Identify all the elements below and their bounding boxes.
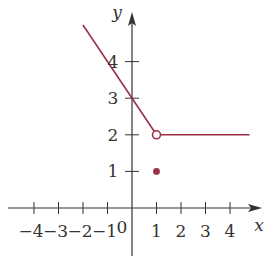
filled-point-marker: [153, 168, 160, 175]
origin-label: 0: [117, 217, 128, 237]
y-axis-label: y: [111, 2, 122, 22]
y-tick-label: 2: [108, 125, 119, 145]
x-tick-label: 2: [176, 221, 187, 241]
point-markers: [153, 131, 161, 175]
x-tick-label: −4: [18, 221, 43, 241]
y-tick-label: 3: [108, 88, 119, 108]
x-tick-label: 4: [225, 221, 236, 241]
x-axis-label: x: [254, 215, 264, 235]
function-segment: [83, 25, 157, 135]
x-tick-label: −2: [67, 221, 92, 241]
y-tick-label: 1: [108, 161, 119, 181]
tick-labels: −4−3−2−1123412340xy: [18, 2, 264, 241]
x-tick-label: −3: [43, 221, 68, 241]
y-tick-label: 4: [108, 52, 119, 72]
x-tick-label: 1: [151, 221, 162, 241]
x-tick-label: −1: [92, 221, 117, 241]
x-tick-label: 3: [200, 221, 211, 241]
function-curves: [83, 25, 250, 135]
piecewise-function-graph: −4−3−2−1123412340xy: [0, 0, 271, 257]
open-point-marker: [153, 131, 161, 139]
